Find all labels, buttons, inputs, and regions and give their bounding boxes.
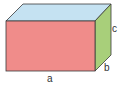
label-b: b: [104, 63, 110, 73]
label-c: c: [112, 24, 117, 34]
top-face: [6, 4, 111, 21]
cuboid-diagram: [0, 0, 118, 88]
label-a: a: [47, 74, 53, 84]
front-face: [6, 21, 95, 71]
